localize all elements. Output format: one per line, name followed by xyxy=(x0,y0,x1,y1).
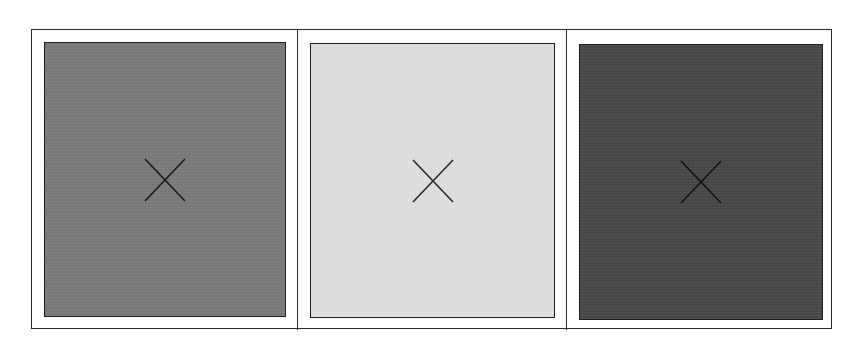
panel-divider-2 xyxy=(566,29,567,330)
swatch-medium-gray xyxy=(44,42,286,317)
swatch-dark-gray xyxy=(579,44,823,320)
panel-divider-1 xyxy=(297,29,298,330)
x-mark-icon xyxy=(144,158,186,202)
swatch-light-gray xyxy=(310,43,555,318)
x-mark-icon xyxy=(680,160,722,204)
x-mark-icon xyxy=(412,159,454,203)
